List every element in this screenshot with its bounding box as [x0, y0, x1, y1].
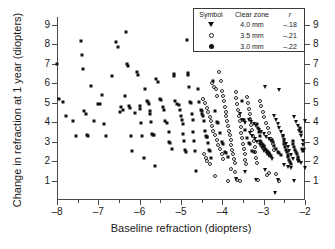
- x-tick-label: –6: [134, 207, 145, 217]
- data-point-4-0-mm: [263, 85, 267, 89]
- data-point-3-0-mm: [189, 102, 192, 105]
- data-point-3-0-mm: [101, 94, 104, 97]
- legend-box: Symbol Clear zone r 4.0 mm–.183.5 mm–.21…: [193, 8, 305, 52]
- y-tick-mark: [52, 142, 57, 143]
- data-point-3-5-mm: [206, 110, 210, 114]
- y-tick-label-left: 8: [44, 39, 50, 49]
- circle-open-icon: [209, 33, 214, 38]
- data-point-3-5-mm: [208, 162, 212, 166]
- data-point-3-0-mm: [249, 142, 252, 145]
- data-point-3-0-mm: [150, 120, 153, 123]
- data-point-3-0-mm: [182, 132, 185, 135]
- x-tick-mark: [98, 200, 99, 205]
- legend-row: 4.0 mm–.18: [194, 19, 304, 30]
- data-point-3-0-mm: [156, 81, 159, 84]
- data-point-3-5-mm: [235, 102, 239, 106]
- x-tick-label: –5: [175, 207, 186, 217]
- data-point-3-5-mm: [220, 89, 224, 93]
- data-point-3-0-mm: [258, 134, 261, 137]
- data-point-3-0-mm: [93, 119, 96, 122]
- data-point-3-5-mm: [227, 129, 231, 133]
- data-point-3-5-mm: [255, 161, 259, 165]
- data-point-3-5-mm: [217, 70, 221, 74]
- data-point-3-0-mm: [127, 65, 130, 68]
- data-point-3-0-mm: [131, 149, 134, 152]
- y-tick-mark: [305, 181, 310, 182]
- data-point-3-5-mm: [254, 156, 258, 160]
- y-tick-mark: [52, 181, 57, 182]
- y-tick-mark: [305, 83, 310, 84]
- data-point-3-5-mm: [262, 115, 266, 119]
- data-point-3-0-mm: [58, 98, 61, 101]
- y-tick-mark: [305, 25, 310, 26]
- data-point-3-0-mm: [124, 31, 127, 34]
- data-point-3-5-mm: [241, 142, 245, 146]
- data-point-3-5-mm: [215, 138, 219, 142]
- data-point-3-0-mm: [207, 142, 210, 145]
- data-point-3-5-mm: [226, 124, 230, 128]
- data-point-3-5-mm: [220, 152, 224, 156]
- y-tick-label-left: 6: [44, 78, 50, 88]
- data-point-3-5-mm: [264, 121, 268, 125]
- y-axis-title: Change in refraction at 1 year (diopters…: [11, 12, 23, 208]
- data-point-3-5-mm: [223, 105, 227, 109]
- y-tick-mark: [52, 83, 57, 84]
- data-point-3-0-mm: [129, 135, 132, 138]
- data-point-3-5-mm: [209, 119, 213, 123]
- data-point-3-5-mm: [240, 136, 244, 140]
- y-axis-left-spine: [57, 17, 58, 200]
- data-point-3-5-mm: [266, 126, 270, 130]
- x-tick-mark: [264, 200, 265, 205]
- x-tick-mark: [181, 200, 182, 205]
- x-tick-label: –2: [299, 207, 310, 217]
- data-point-3-5-mm: [247, 107, 251, 111]
- data-point-3-5-mm: [259, 104, 263, 108]
- data-point-3-0-mm: [167, 130, 170, 133]
- data-point-3-0-mm: [177, 104, 180, 107]
- data-point-4-0-mm: [238, 112, 242, 116]
- x-tick-label: –4: [217, 207, 228, 217]
- data-point-3-0-mm: [194, 170, 197, 173]
- data-point-3-0-mm: [173, 74, 176, 77]
- data-point-3-0-mm: [103, 122, 106, 125]
- x-tick-mark: [57, 200, 58, 205]
- scatter-plot-figure: Change in refraction at 1 year (diopters…: [0, 0, 335, 249]
- data-point-3-0-mm: [165, 121, 168, 124]
- y-tick-mark: [305, 64, 310, 65]
- y-tick-label-left: 1: [44, 176, 50, 186]
- data-point-3-0-mm: [114, 40, 117, 43]
- data-point-3-0-mm: [180, 115, 183, 118]
- data-point-3-0-mm: [202, 114, 205, 117]
- data-point-3-0-mm: [56, 62, 59, 65]
- data-point-3-0-mm: [152, 134, 155, 137]
- data-point-3-5-mm: [242, 147, 246, 151]
- data-point-3-0-mm: [169, 142, 172, 145]
- y-tick-mark: [305, 103, 310, 104]
- y-tick-label-left: 5: [44, 98, 50, 108]
- data-point-3-5-mm: [210, 124, 214, 128]
- y-tick-mark: [52, 161, 57, 162]
- data-point-3-0-mm: [193, 140, 196, 143]
- data-point-3-5-mm: [265, 173, 269, 177]
- data-point-3-0-mm: [147, 103, 150, 106]
- data-point-4-0-mm: [302, 148, 306, 152]
- data-point-4-0-mm: [270, 157, 274, 161]
- y-tick-mark: [52, 122, 57, 123]
- legend-header-r: r: [276, 11, 304, 19]
- y-tick-label-right: 9: [313, 20, 319, 30]
- data-point-3-5-mm: [224, 114, 228, 118]
- x-minor-tick-mark: [202, 200, 203, 203]
- legend-clear-zone-cell: 4.0 mm: [228, 19, 276, 30]
- data-point-3-0-mm: [196, 88, 199, 91]
- x-tick-mark: [140, 200, 141, 205]
- data-point-3-5-mm: [213, 174, 217, 178]
- x-tick-label: –8: [51, 207, 62, 217]
- data-point-4-0-mm: [276, 178, 280, 182]
- data-point-4-0-mm: [294, 120, 298, 124]
- data-point-3-5-mm: [218, 147, 222, 151]
- data-point-3-5-mm: [245, 95, 249, 99]
- y-tick-label-right: 4: [313, 117, 319, 127]
- data-point-4-0-mm: [299, 134, 303, 138]
- data-point-3-5-mm: [219, 79, 223, 83]
- data-point-3-0-mm: [104, 135, 107, 138]
